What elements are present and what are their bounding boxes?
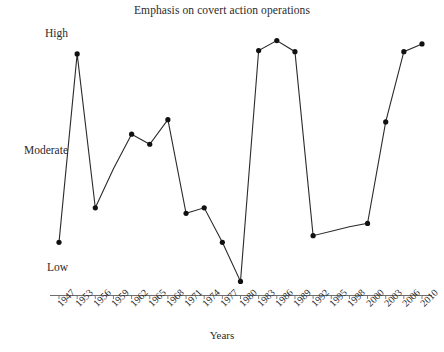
data-point [129,132,134,137]
data-point [401,49,406,54]
data-point [165,117,170,122]
data-point [147,142,152,147]
data-point [202,205,207,210]
data-point [419,41,424,46]
data-point [274,38,279,43]
series-layer [56,38,424,284]
data-point [238,279,243,284]
series-line-covert-action [59,41,422,282]
data-point [365,221,370,226]
data-point [220,240,225,245]
x-axis-title: Years [0,329,444,341]
chart-container: Emphasis on covert action operations Hig… [0,0,444,352]
data-point [383,119,388,124]
data-point [256,48,261,53]
data-point [56,240,61,245]
data-point [292,49,297,54]
series-markers [56,38,424,284]
data-point [183,211,188,216]
data-point [93,205,98,210]
data-point [75,51,80,56]
data-point [311,233,316,238]
